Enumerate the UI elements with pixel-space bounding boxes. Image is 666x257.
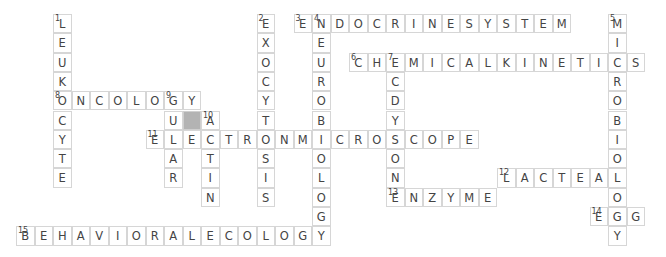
crossword-cell[interactable]: O — [275, 226, 294, 245]
crossword-cell[interactable]: A — [164, 149, 183, 168]
crossword-cell[interactable]: G — [627, 207, 646, 226]
crossword-cell[interactable]: E — [35, 226, 54, 245]
crossword-cell[interactable]: L — [257, 226, 276, 245]
crossword-cell[interactable]: P — [442, 130, 461, 149]
crossword-cell[interactable]: N — [423, 14, 442, 33]
crossword-cell[interactable]: T — [553, 168, 572, 187]
crossword-cell[interactable]: O — [109, 91, 128, 110]
crossword-cell[interactable]: I — [405, 14, 424, 33]
crossword-cell[interactable]: O — [423, 130, 442, 149]
crossword-cell[interactable]: I — [257, 168, 276, 187]
crossword-cell[interactable]: O — [238, 226, 257, 245]
crossword-cell[interactable]: A — [164, 226, 183, 245]
crossword-cell[interactable]: C — [90, 91, 109, 110]
crossword-cell[interactable]: E — [571, 168, 590, 187]
crossword-cell[interactable]: M — [460, 188, 479, 207]
crossword-cell[interactable]: Y — [479, 14, 498, 33]
crossword-cell[interactable]: Y — [183, 91, 202, 110]
crossword-cell[interactable]: O — [257, 53, 276, 72]
crossword-cell[interactable]: 8O — [53, 91, 72, 110]
crossword-cell[interactable]: R — [164, 168, 183, 187]
crossword-cell[interactable]: U — [164, 111, 183, 130]
crossword-cell[interactable]: S — [460, 14, 479, 33]
crossword-cell[interactable]: O — [127, 226, 146, 245]
crossword-cell[interactable]: R — [312, 72, 331, 91]
crossword-cell[interactable]: 9G — [164, 91, 183, 110]
crossword-cell[interactable]: Y — [257, 91, 276, 110]
crossword-cell[interactable]: D — [386, 91, 405, 110]
crossword-cell[interactable]: Y — [53, 130, 72, 149]
crossword-cell[interactable]: B — [312, 111, 331, 130]
crossword-cell[interactable]: E — [201, 226, 220, 245]
crossword-cell[interactable]: A — [590, 168, 609, 187]
crossword-cell[interactable]: C — [608, 53, 627, 72]
crossword-cell[interactable]: S — [386, 130, 405, 149]
crossword-cell[interactable]: S — [497, 14, 516, 33]
crossword-cell[interactable]: Y — [442, 188, 461, 207]
crossword-cell[interactable]: T — [53, 149, 72, 168]
crossword-cell[interactable]: E — [53, 33, 72, 52]
crossword-cell[interactable]: 4N — [312, 14, 331, 33]
crossword-cell[interactable]: Y — [608, 226, 627, 245]
crossword-cell[interactable]: N — [534, 53, 553, 72]
crossword-cell[interactable]: I — [516, 53, 535, 72]
crossword-cell[interactable]: N — [405, 188, 424, 207]
crossword-cell[interactable]: R — [146, 226, 165, 245]
crossword-cell[interactable]: C — [220, 226, 239, 245]
crossword-cell[interactable]: 12L — [497, 168, 516, 187]
crossword-cell[interactable]: E — [312, 33, 331, 52]
crossword-cell[interactable]: X — [257, 33, 276, 52]
crossword-cell[interactable]: C — [405, 130, 424, 149]
crossword-cell[interactable]: U — [53, 53, 72, 72]
crossword-cell[interactable]: H — [368, 53, 387, 72]
crossword-cell[interactable]: E — [442, 14, 461, 33]
crossword-cell[interactable]: O — [312, 91, 331, 110]
crossword-cell[interactable]: O — [386, 149, 405, 168]
crossword-cell[interactable]: G — [608, 207, 627, 226]
crossword-cell[interactable]: R — [238, 130, 257, 149]
crossword-cell[interactable]: L — [164, 130, 183, 149]
crossword-cell[interactable]: E — [53, 168, 72, 187]
crossword-cell[interactable]: 15B — [16, 226, 35, 245]
crossword-cell[interactable]: R — [386, 14, 405, 33]
crossword-cell[interactable]: O — [608, 91, 627, 110]
crossword-cell[interactable]: V — [90, 226, 109, 245]
crossword-cell[interactable]: O — [146, 91, 165, 110]
crossword-cell[interactable]: L — [608, 168, 627, 187]
crossword-cell[interactable]: C — [331, 130, 350, 149]
crossword-cell[interactable]: C — [257, 72, 276, 91]
crossword-cell[interactable]: I — [608, 130, 627, 149]
crossword-cell[interactable]: I — [312, 130, 331, 149]
crossword-cell[interactable]: O — [349, 14, 368, 33]
crossword-cell[interactable]: U — [312, 53, 331, 72]
crossword-cell[interactable]: E — [183, 130, 202, 149]
crossword-cell[interactable]: O — [608, 188, 627, 207]
crossword-cell[interactable]: D — [331, 14, 350, 33]
crossword-cell[interactable]: R — [349, 130, 368, 149]
crossword-cell[interactable]: O — [368, 130, 387, 149]
crossword-cell[interactable]: O — [608, 149, 627, 168]
crossword-cell[interactable]: L — [127, 91, 146, 110]
crossword-cell[interactable]: 5M — [608, 14, 627, 33]
crossword-cell[interactable]: T — [571, 53, 590, 72]
crossword-cell[interactable]: L — [312, 168, 331, 187]
crossword-cell[interactable]: S — [627, 53, 646, 72]
crossword-cell[interactable]: Z — [423, 188, 442, 207]
crossword-cell[interactable]: A — [516, 168, 535, 187]
crossword-cell[interactable]: G — [312, 207, 331, 226]
crossword-cell[interactable]: N — [386, 168, 405, 187]
crossword-cell[interactable]: 11E — [146, 130, 165, 149]
crossword-cell[interactable]: 13E — [386, 188, 405, 207]
crossword-cell[interactable]: E — [479, 188, 498, 207]
crossword-cell[interactable]: T — [257, 111, 276, 130]
crossword-cell[interactable]: O — [312, 188, 331, 207]
crossword-cell[interactable]: 10A — [201, 111, 220, 130]
crossword-cell[interactable]: B — [608, 111, 627, 130]
crossword-cell[interactable]: H — [53, 226, 72, 245]
crossword-cell[interactable]: L — [183, 226, 202, 245]
crossword-cell[interactable]: C — [53, 111, 72, 130]
crossword-cell[interactable]: I — [109, 226, 128, 245]
crossword-cell[interactable]: M — [553, 14, 572, 33]
crossword-cell[interactable]: T — [220, 130, 239, 149]
crossword-cell[interactable]: C — [442, 53, 461, 72]
